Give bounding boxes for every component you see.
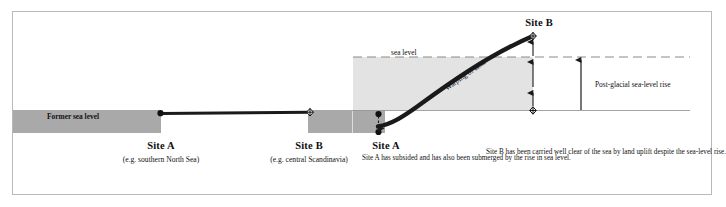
diagram-canvas: Former sea level Site A (e.g. southern N… xyxy=(0,0,726,207)
site-a-title-left: Site A xyxy=(120,140,202,151)
site-b-title-right-visible: Site B xyxy=(508,17,570,28)
land-band-left-right xyxy=(308,110,352,133)
site-b-subtitle-left: (e.g. central Scandinavia) xyxy=(249,155,369,164)
site-b-note: Site B has been carried well clear of th… xyxy=(486,148,560,156)
former-land-surface xyxy=(160,112,310,113)
former-sea-level-label: Former sea level xyxy=(47,112,99,121)
diagram-graphics xyxy=(0,0,726,207)
site-a-note: Site A has subsided and has also been su… xyxy=(362,154,432,162)
site-a-marker-subsided xyxy=(375,129,381,135)
post-glacial-rise-label: Post-glacial sea-level rise xyxy=(595,80,671,89)
site-a-subtitle-left: (e.g. southern North Sea) xyxy=(106,155,216,164)
sea-level-label: sea level xyxy=(391,48,417,57)
site-a-marker-left xyxy=(157,110,163,116)
site-a-title-right: Site A xyxy=(355,140,417,151)
site-b-title-left: Site B xyxy=(268,140,350,151)
